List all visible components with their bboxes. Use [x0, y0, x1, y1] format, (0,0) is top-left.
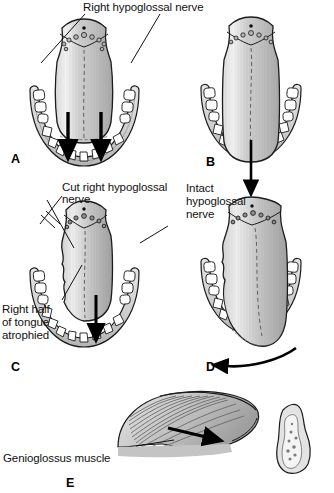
panel-a: A: [11, 14, 160, 166]
label-intact-hypoglossal-nerve-line2: hypoglossal: [186, 195, 246, 208]
panel-e: E: [66, 391, 310, 490]
label-genioglossus-muscle: Genioglossus muscle: [3, 452, 110, 465]
mandible-cross-section-e: [277, 404, 310, 473]
figure-hypoglossal-nerve-lesion: A: [0, 0, 334, 493]
tongue-body-d-deviated: [222, 197, 288, 346]
label-intact-hypoglossal-nerve-line3: nerve: [186, 208, 214, 221]
label-intact-hypoglossal-nerve-line1: Intact: [186, 182, 214, 195]
intact-nerve-leader-c: [140, 226, 168, 243]
label-cut-right-hypoglossal-nerve-line2: nerve: [62, 193, 90, 206]
panel-letter-a: A: [11, 152, 20, 166]
label-right-half-atrophied-line3: atrophied: [2, 329, 49, 342]
tongue-body-c-atrophied: [62, 201, 113, 321]
label-right-hypoglossal-nerve: Right hypoglossal nerve: [83, 1, 203, 14]
panel-letter-e: E: [66, 476, 74, 490]
label-right-half-atrophied-line1: Right half: [2, 303, 50, 316]
deviation-arrow-d: [226, 348, 296, 366]
label-right-half-atrophied-line2: of tongue: [2, 316, 49, 329]
panel-letter-d: D: [206, 360, 215, 374]
panel-b: B: [201, 17, 301, 182]
panel-letter-b: B: [206, 155, 215, 169]
panel-d: D: [201, 197, 301, 374]
panel-c: C: [11, 196, 168, 374]
panel-letter-c: C: [11, 360, 20, 374]
tongue-sagittal-e: [118, 391, 259, 450]
label-cut-right-hypoglossal-nerve-line1: Cut right hypoglossal: [62, 181, 167, 194]
